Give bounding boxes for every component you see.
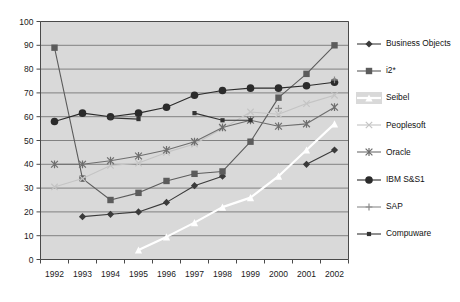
legend-item[interactable]: i2*	[356, 57, 460, 84]
y-tick-label: 60	[24, 112, 34, 122]
data-point-marker	[303, 71, 309, 77]
data-point-marker	[219, 168, 225, 174]
data-point-marker	[135, 190, 141, 196]
legend-item[interactable]: IBM S&S1	[356, 166, 460, 193]
data-point-marker	[247, 84, 255, 92]
legend-item-label: SAP	[382, 202, 403, 211]
y-tick-label: 40	[24, 159, 34, 169]
legend-item[interactable]: Business Objects	[356, 30, 460, 57]
x-tick-label: 1994	[101, 269, 120, 279]
y-tick-label: 0	[29, 255, 34, 265]
triangle-marker-icon	[356, 90, 382, 106]
data-point-marker	[366, 203, 373, 210]
line-chart: 0102030405060708090100 19921993199419951…	[0, 0, 460, 302]
legend-item[interactable]: Peoplesoft	[356, 112, 460, 139]
x-tick-label: 1996	[157, 269, 176, 279]
data-point-marker	[365, 40, 372, 47]
data-point-marker	[303, 82, 311, 90]
data-point-marker	[107, 197, 113, 203]
data-point-marker	[79, 109, 87, 117]
chart-legend: Business Objectsi2*SeibelPeoplesoftOracl…	[356, 30, 460, 248]
star-marker-icon	[356, 144, 382, 160]
circle-marker-icon	[356, 172, 382, 188]
x-marker-icon	[356, 117, 382, 133]
data-point-marker	[108, 116, 112, 120]
legend-item-label: Oracle	[382, 148, 411, 157]
legend-item[interactable]: Seibel	[356, 84, 460, 111]
x-tick-label: 1997	[185, 269, 204, 279]
square-marker-icon	[356, 63, 382, 79]
diamond-marker-icon	[356, 36, 382, 52]
x-tick-label: 2002	[325, 269, 344, 279]
y-tick-label: 90	[24, 40, 34, 50]
data-point-marker	[365, 176, 373, 184]
y-tick-label: 20	[24, 207, 34, 217]
x-tick-label: 2001	[297, 269, 316, 279]
data-point-marker	[367, 232, 371, 236]
legend-item-label: Peoplesoft	[382, 121, 426, 130]
x-tick-label: 1998	[213, 269, 232, 279]
x-tick-label: 1999	[241, 269, 260, 279]
data-point-marker	[163, 103, 171, 111]
data-point-marker	[191, 91, 199, 99]
legend-item-label: i2*	[382, 66, 396, 75]
data-point-marker	[163, 178, 169, 184]
data-point-marker	[136, 117, 140, 121]
legend-item-label: Seibel	[382, 93, 409, 102]
legend-item[interactable]: SAP	[356, 193, 460, 220]
y-tick-label: 50	[24, 136, 34, 146]
y-tick-label: 80	[24, 64, 34, 74]
x-tick-label: 1995	[129, 269, 148, 279]
data-point-marker	[51, 44, 57, 50]
y-tick-label: 10	[24, 231, 34, 241]
data-point-marker	[248, 118, 252, 122]
data-point-marker	[275, 84, 283, 92]
x-tick-label: 1992	[45, 269, 64, 279]
legend-item[interactable]: Oracle	[356, 139, 460, 166]
plus-marker-icon	[356, 199, 382, 215]
data-point-marker	[275, 94, 281, 100]
data-point-marker	[220, 118, 224, 122]
data-point-marker	[135, 109, 143, 117]
small-square-marker-icon	[356, 226, 382, 242]
y-tick-label: 100	[19, 17, 33, 27]
legend-item-label: IBM S&S1	[382, 175, 425, 184]
data-point-marker	[191, 171, 197, 177]
y-tick-label: 30	[24, 183, 34, 193]
data-point-marker	[51, 118, 59, 126]
x-tick-label: 1993	[73, 269, 92, 279]
data-point-marker	[219, 87, 227, 95]
data-point-marker	[366, 68, 372, 74]
x-tick-label: 2000	[269, 269, 288, 279]
legend-item-label: Business Objects	[382, 39, 451, 48]
data-point-marker	[192, 111, 196, 115]
data-point-marker	[247, 138, 253, 144]
legend-item-label: Compuware	[382, 229, 431, 238]
data-point-marker	[331, 42, 337, 48]
y-tick-label: 70	[24, 88, 34, 98]
legend-item[interactable]: Compuware	[356, 220, 460, 247]
